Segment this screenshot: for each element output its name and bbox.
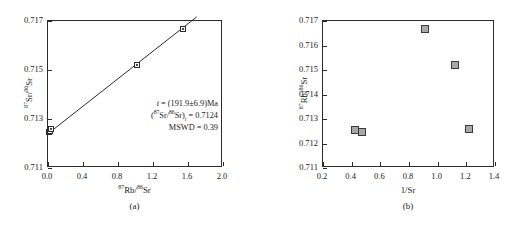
y-tick-label-b: 0.711 xyxy=(266,163,318,172)
plot-area-b xyxy=(323,21,493,166)
data-point-marker xyxy=(358,128,366,136)
y-tick-a xyxy=(48,168,52,169)
x-tick-label-a: 2.0 xyxy=(217,172,228,181)
y-tick-label-b: 0.717 xyxy=(266,16,318,25)
x-tick-a xyxy=(153,162,154,166)
x-tick-a xyxy=(223,162,224,166)
plot-frame-a xyxy=(47,20,222,167)
x-tick-a xyxy=(118,162,119,166)
annotation-age-line: t = (191.9±6.9)Ma xyxy=(108,98,218,110)
data-point-marker xyxy=(134,62,140,68)
annotation-initial-value: = 0.7124 xyxy=(186,111,218,120)
x-tick-b xyxy=(438,162,439,166)
x-tick-b xyxy=(352,162,353,166)
y-tick-b xyxy=(323,144,327,145)
y-axis-title-b-base2: Sr xyxy=(299,76,309,84)
y-tick-a xyxy=(48,21,52,22)
x-tick-b xyxy=(495,162,496,166)
y-tick-label-a: 0.715 xyxy=(0,65,43,74)
y-tick-b xyxy=(323,119,327,120)
x-tick-label-b: 1.0 xyxy=(431,172,442,181)
y-tick-label-a: 0.711 xyxy=(0,163,43,172)
x-axis-title-a: 87Rb/86Sr xyxy=(7,185,262,195)
y-tick-b xyxy=(323,70,327,71)
y-tick-label-a: 0.713 xyxy=(0,114,43,123)
isochron-annotation: t = (191.9±6.9)Ma (87Sr/86Sr)i = 0.7124 … xyxy=(108,98,218,134)
x-tick-b xyxy=(323,162,324,166)
y-axis-title-a-base2: Sr xyxy=(24,77,34,85)
x-tick-label-b: 0.6 xyxy=(374,172,385,181)
y-axis-title-b-sup1: 87 xyxy=(298,103,304,109)
y-tick-label-b: 0.713 xyxy=(266,114,318,123)
x-tick-label-a: 0.0 xyxy=(42,172,53,181)
panel-caption-b: (b) xyxy=(282,201,532,211)
data-point-center xyxy=(182,28,184,30)
annotation-mswd-line: MSWD = 0.39 xyxy=(108,122,218,134)
y-tick-b xyxy=(323,168,327,169)
y-tick-label-b: 0.712 xyxy=(266,138,318,147)
chart-panel-a: 87Rb/86Sr 87Sr/86Sr t = (191.9±6.9)Ma (8… xyxy=(0,0,266,228)
x-tick-label-a: 0.4 xyxy=(77,172,88,181)
y-tick-b xyxy=(323,46,327,47)
y-tick-a xyxy=(48,70,52,71)
y-tick-b xyxy=(323,95,327,96)
data-point-marker xyxy=(465,125,473,133)
x-tick-label-b: 1.2 xyxy=(460,172,471,181)
annotation-age-value: = (191.9±6.9)Ma xyxy=(159,99,218,108)
isochron-fit-line xyxy=(48,21,223,168)
annotation-sr-mid: Sr/ xyxy=(159,111,169,120)
x-tick-a xyxy=(83,162,84,166)
y-tick-label-b: 0.715 xyxy=(266,65,318,74)
data-point-marker xyxy=(48,126,54,132)
annotation-sr-end: Sr) xyxy=(175,111,185,120)
y-tick-label-b: 0.716 xyxy=(266,40,318,49)
x-tick-label-b: 1.4 xyxy=(489,172,500,181)
y-axis-title-a-sup1: 87 xyxy=(23,102,29,108)
plot-area-a xyxy=(48,21,221,166)
chart-panel-b: 1/Sr 87Rb/86Sr (b) 0.20.40.60.81.01.21.4… xyxy=(266,0,532,228)
x-tick-a xyxy=(188,162,189,166)
x-axis-title-a-base1: Rb/ xyxy=(124,185,137,195)
annotation-initial-ratio-line: (87Sr/86Sr)i = 0.7124 xyxy=(108,110,218,122)
data-point-marker xyxy=(180,26,186,32)
y-tick-label-a: 0.717 xyxy=(0,16,43,25)
x-tick-label-a: 0.8 xyxy=(112,172,123,181)
x-axis-title-a-base2: Sr xyxy=(143,185,151,195)
x-tick-label-a: 1.2 xyxy=(147,172,158,181)
x-tick-b xyxy=(466,162,467,166)
y-tick-b xyxy=(323,21,327,22)
y-tick-label-b: 0.714 xyxy=(266,89,318,98)
x-tick-label-b: 0.2 xyxy=(317,172,328,181)
x-tick-a xyxy=(48,162,49,166)
y-axis-title-a-sup2: 86 xyxy=(23,85,29,91)
x-tick-b xyxy=(380,162,381,166)
x-tick-b xyxy=(409,162,410,166)
figure-container: 87Rb/86Sr 87Sr/86Sr t = (191.9±6.9)Ma (8… xyxy=(0,0,532,228)
data-point-center xyxy=(50,128,52,130)
x-tick-label-b: 0.8 xyxy=(403,172,414,181)
x-tick-label-a: 1.6 xyxy=(182,172,193,181)
x-tick-label-b: 0.4 xyxy=(345,172,356,181)
x-axis-title-b: 1/Sr xyxy=(282,185,532,195)
data-point-marker xyxy=(451,61,459,69)
y-axis-title-a-base1: Sr/ xyxy=(24,91,34,101)
data-point-marker xyxy=(421,25,429,33)
y-tick-a xyxy=(48,119,52,120)
data-point-center xyxy=(136,64,138,66)
panel-caption-a: (a) xyxy=(7,201,262,211)
plot-frame-b xyxy=(322,20,494,167)
